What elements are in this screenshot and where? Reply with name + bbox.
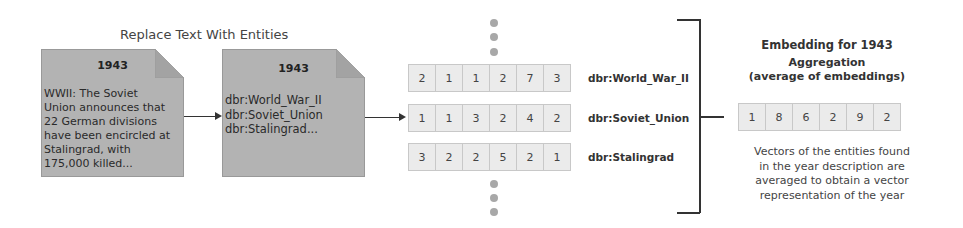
entity-label: dbr:Stalingrad bbox=[588, 151, 674, 163]
vector-cell: 5 bbox=[489, 143, 517, 171]
text-line: have been encircled at bbox=[44, 129, 180, 143]
vector-cell: 1 bbox=[543, 143, 571, 171]
description-line: in the year description are bbox=[737, 160, 927, 175]
ellipsis-dot-icon bbox=[490, 19, 498, 27]
aggregation-subtitle: (average of embeddings) bbox=[727, 70, 927, 83]
entity-label: dbr:Soviet_Union bbox=[588, 112, 689, 124]
bracket-connector bbox=[700, 116, 724, 118]
entity-vector-soviet-union: 1 1 3 2 4 2 bbox=[408, 104, 570, 132]
vector-cell: 2 bbox=[489, 104, 517, 132]
vector-cell: 2 bbox=[819, 103, 847, 131]
entity-document: 1943 dbr:World_War_II dbr:Soviet_Union d… bbox=[222, 49, 365, 177]
vector-cell: 7 bbox=[516, 64, 544, 92]
source-document: 1943 WWII: The Soviet Union announces th… bbox=[41, 49, 184, 177]
vector-cell: 6 bbox=[792, 103, 820, 131]
vector-cell: 1 bbox=[435, 104, 463, 132]
entity-vector-stalingrad: 3 2 2 5 2 1 bbox=[408, 143, 570, 171]
vector-cell: 1 bbox=[408, 104, 436, 132]
aggregation-title: Aggregation bbox=[737, 56, 917, 69]
entity-label: dbr:World_War_II bbox=[588, 72, 689, 84]
ellipsis-dot-icon bbox=[490, 48, 498, 56]
vector-cell: 2 bbox=[489, 64, 517, 92]
ellipsis-dot-icon bbox=[490, 194, 498, 202]
description-line: averaged to obtain a vector bbox=[737, 174, 927, 189]
vector-cell: 3 bbox=[408, 143, 436, 171]
vector-cell: 2 bbox=[408, 64, 436, 92]
vector-cell: 1 bbox=[462, 64, 490, 92]
ellipsis-dot-icon bbox=[490, 33, 498, 41]
text-line: Stalingrad, with bbox=[44, 143, 180, 157]
aggregation-description: Vectors of the entities found in the yea… bbox=[737, 145, 927, 203]
source-doc-year: 1943 bbox=[42, 59, 183, 72]
arrow-right-icon bbox=[215, 112, 222, 120]
description-line: Vectors of the entities found bbox=[737, 145, 927, 160]
text-line: Union announces that bbox=[44, 101, 180, 115]
entity-line: dbr:Soviet_Union bbox=[225, 108, 323, 123]
vector-cell: 2 bbox=[462, 143, 490, 171]
vector-cell: 2 bbox=[516, 143, 544, 171]
entity-line: dbr:Stalingrad... bbox=[225, 122, 323, 137]
entity-doc-text: dbr:World_War_II dbr:Soviet_Union dbr:St… bbox=[225, 93, 323, 137]
embedding-title: Embedding for 1943 bbox=[737, 38, 917, 52]
entity-line: dbr:World_War_II bbox=[225, 93, 323, 108]
entity-doc-year: 1943 bbox=[223, 62, 364, 75]
vector-cell: 3 bbox=[543, 64, 571, 92]
source-doc-text: WWII: The Soviet Union announces that 22… bbox=[44, 87, 180, 171]
description-line: representation of the year bbox=[737, 189, 927, 204]
vector-cell: 9 bbox=[846, 103, 874, 131]
bracket-top bbox=[677, 19, 700, 21]
text-line: 22 German divisions bbox=[44, 115, 180, 129]
vector-cell: 3 bbox=[462, 104, 490, 132]
vector-cell: 2 bbox=[435, 143, 463, 171]
ellipsis-dot-icon bbox=[490, 180, 498, 188]
vector-cell: 4 bbox=[516, 104, 544, 132]
bracket-bottom bbox=[677, 212, 700, 214]
text-line: WWII: The Soviet bbox=[44, 87, 180, 101]
text-line: 175,000 killed... bbox=[44, 157, 180, 171]
ellipsis-dot-icon bbox=[490, 208, 498, 216]
vector-cell: 8 bbox=[765, 103, 793, 131]
arrow-line bbox=[184, 116, 216, 117]
entity-vector-world-war-ii: 2 1 1 2 7 3 bbox=[408, 64, 570, 92]
vector-cell: 1 bbox=[738, 103, 766, 131]
vector-cell: 2 bbox=[873, 103, 901, 131]
vector-cell: 2 bbox=[543, 104, 571, 132]
arrow-right-icon bbox=[399, 113, 406, 121]
replace-text-title: Replace Text With Entities bbox=[120, 27, 288, 42]
arrow-line bbox=[365, 117, 400, 118]
vector-cell: 1 bbox=[435, 64, 463, 92]
result-embedding-vector: 1 8 6 2 9 2 bbox=[738, 103, 900, 131]
